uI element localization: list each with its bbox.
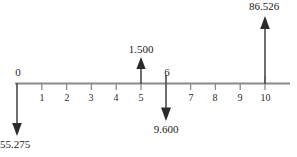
period-label-8: 8 (208, 93, 222, 103)
cash-flow-arrow-10 (260, 16, 270, 84)
period-label-0: 0 (11, 67, 25, 78)
cash-flow-label-5: 1.500 (118, 44, 164, 55)
cash-flow-arrow-5 (136, 57, 145, 84)
cash-flow-diagram: 0 6 1 2 3 4 5 7 8 9 10 55.275 1.500 9.60… (0, 0, 297, 157)
period-label-1: 1 (35, 93, 49, 103)
cash-flow-label-10: 86.526 (238, 1, 290, 12)
cash-flow-label-0: 55.275 (0, 139, 48, 150)
period-label-2: 2 (60, 93, 74, 103)
period-label-5: 5 (134, 93, 148, 103)
period-label-10: 10 (257, 93, 274, 103)
cash-flow-label-6: 9.600 (143, 124, 189, 135)
period-label-6: 6 (160, 67, 174, 78)
cash-flow-arrow-6 (161, 75, 171, 121)
period-label-4: 4 (109, 93, 123, 103)
period-label-3: 3 (84, 93, 98, 103)
period-label-9: 9 (233, 93, 247, 103)
period-label-7: 7 (184, 93, 198, 103)
cash-flow-arrow-0 (12, 83, 22, 136)
